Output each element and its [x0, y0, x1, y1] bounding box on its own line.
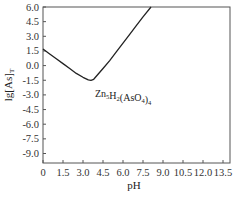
- plot-frame: [43, 7, 230, 163]
- x-tick-label: 13.5: [214, 167, 232, 178]
- y-tick-label: -4.5: [22, 104, 39, 115]
- y-tick-label: -9.0: [22, 148, 39, 159]
- y-axis-title: lg[As]T: [2, 68, 16, 101]
- x-tick-label: 12.0: [194, 167, 212, 178]
- x-tick-label: 0: [40, 167, 45, 178]
- y-axis-ticks: 6.04.53.01.50.0-1.5-3.0-4.5-6.0-7.5-9.0: [22, 2, 46, 160]
- compound-annotation: Zn5H2(AsO4)4: [95, 88, 152, 106]
- chart: 6.04.53.01.50.0-1.5-3.0-4.5-6.0-7.5-9.0 …: [0, 0, 237, 197]
- plot-border: [43, 7, 230, 163]
- x-tick-label: 1.5: [56, 167, 69, 178]
- y-tick-label: -3.0: [22, 89, 39, 100]
- series-line: [43, 7, 151, 80]
- y-tick-label: 0.0: [26, 60, 39, 71]
- y-tick-label: 1.5: [26, 45, 39, 56]
- x-axis-title: pH: [127, 179, 141, 191]
- y-tick-label: 6.0: [26, 2, 39, 13]
- x-tick-label: 7.5: [136, 167, 149, 178]
- y-tick-label: 3.0: [26, 31, 39, 42]
- x-tick-label: 3.0: [76, 167, 89, 178]
- x-tick-label: 9.0: [156, 167, 169, 178]
- x-tick-label: 4.5: [96, 167, 109, 178]
- x-tick-label: 6.0: [116, 167, 129, 178]
- x-tick-label: 10.5: [174, 167, 192, 178]
- y-tick-label: -1.5: [22, 75, 39, 86]
- y-tick-label: -6.0: [22, 119, 39, 130]
- y-tick-label: 4.5: [26, 16, 39, 27]
- series-lines: [43, 7, 151, 80]
- y-tick-label: -7.5: [22, 133, 39, 144]
